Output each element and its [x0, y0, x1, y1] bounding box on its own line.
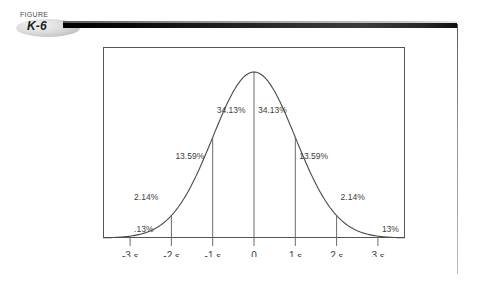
axis-tick-labels: -3s-2s-1s01s2s3s — [122, 250, 385, 257]
right-margin-rule — [457, 24, 458, 274]
axis-tick-marks — [130, 238, 378, 246]
figure-caption-word: FIGURE — [20, 11, 48, 18]
band-percentage-label: 34.13% — [217, 105, 246, 115]
band-percentage-label: 34.13% — [258, 105, 287, 115]
band-divider-lines — [130, 72, 378, 238]
band-percentage-label: 13% — [382, 224, 399, 234]
normal-distribution-chart: .13%2.14%13.59%34.13%34.13%13.59%2.14%13… — [103, 47, 405, 257]
band-percentage-label: 2.14% — [134, 192, 159, 202]
axis-tick-label: 2s — [330, 250, 343, 257]
axis-tick-label: -1s — [205, 250, 221, 257]
band-percentage-label: 13.59% — [299, 151, 328, 161]
band-percentage-label: .13% — [134, 224, 154, 234]
header-rule-body — [63, 23, 457, 28]
figure-number: K-6 — [27, 19, 47, 33]
axis-tick-label: 0 — [251, 250, 257, 257]
axis-tick-label: 3s — [371, 250, 384, 257]
axis-tick-label: -3s — [122, 250, 138, 257]
header-gradient-rule — [63, 21, 457, 28]
axis-tick-label: 1s — [289, 250, 302, 257]
band-percentage-label: 2.14% — [341, 192, 366, 202]
chart-svg: .13%2.14%13.59%34.13%34.13%13.59%2.14%13… — [103, 47, 405, 257]
band-percentage-label: 13.59% — [175, 151, 204, 161]
axis-tick-label: -2s — [163, 250, 179, 257]
band-percentage-labels: .13%2.14%13.59%34.13%34.13%13.59%2.14%13… — [134, 105, 399, 234]
